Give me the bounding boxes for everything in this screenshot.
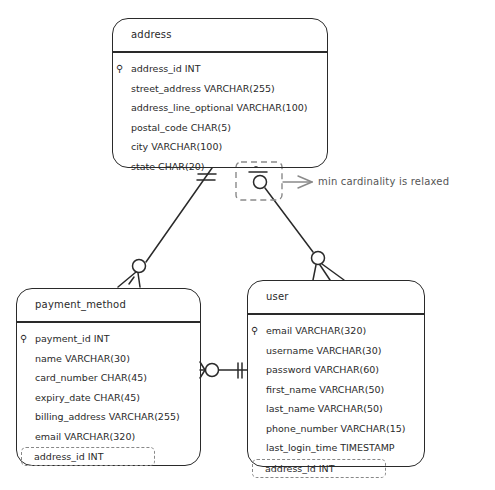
field: street_address VARCHAR(255) <box>113 79 327 99</box>
field: city VARCHAR(100) <box>113 137 327 157</box>
field: card_number CHAR(45) <box>17 368 200 388</box>
entity-title: payment_method <box>17 289 200 323</box>
field: email VARCHAR(320) <box>17 427 200 447</box>
foreign-key-field: address_id INT <box>21 447 155 466</box>
field: state CHAR(20) <box>113 157 327 177</box>
key-icon: ⚲ <box>20 329 27 349</box>
field: postal_code CHAR(5) <box>113 118 327 138</box>
key-icon: ⚲ <box>116 59 123 79</box>
annotation-note: min cardinality is relaxed <box>318 176 449 187</box>
entity-title: address <box>113 19 327 53</box>
field: last_login_time TIMESTAMP <box>248 438 424 458</box>
field: phone_number VARCHAR(15) <box>248 419 424 439</box>
field: username VARCHAR(30) <box>248 341 424 361</box>
entity-address[interactable]: address ⚲ address_id INT street_address … <box>112 18 328 168</box>
primary-key-field: ⚲ email VARCHAR(320) <box>248 321 424 341</box>
foreign-key-field: address_id INT <box>252 459 386 478</box>
field: name VARCHAR(30) <box>17 349 200 369</box>
field: address_line_optional VARCHAR(100) <box>113 98 327 118</box>
primary-key-field: ⚲ payment_id INT <box>17 329 200 349</box>
field: expiry_date CHAR(45) <box>17 388 200 408</box>
primary-key-field: ⚲ address_id INT <box>113 59 327 79</box>
key-icon: ⚲ <box>251 321 258 341</box>
entity-user[interactable]: user ⚲ email VARCHAR(320) username VARCH… <box>247 280 425 467</box>
field: first_name VARCHAR(50) <box>248 380 424 400</box>
entity-title: user <box>248 281 424 315</box>
field: last_name VARCHAR(50) <box>248 399 424 419</box>
field: billing_address VARCHAR(255) <box>17 407 200 427</box>
entity-payment-method[interactable]: payment_method ⚲ payment_id INT name VAR… <box>16 288 201 466</box>
field: password VARCHAR(60) <box>248 360 424 380</box>
